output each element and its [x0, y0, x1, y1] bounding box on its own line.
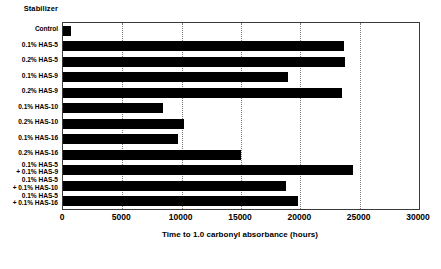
x-axis-tick-label: 25000 — [347, 212, 371, 222]
x-axis-tick-label: 10000 — [169, 212, 193, 222]
bar — [63, 103, 163, 113]
bar-chart: Stabilizer Control0.1% HAS-50.2% HAS-50.… — [0, 0, 441, 269]
bar — [63, 57, 345, 67]
category-label: 0.1% HAS-5 + 0.1% HAS-9 — [0, 161, 58, 176]
bar — [63, 119, 184, 129]
category-label: 0.2% HAS-5 — [0, 56, 58, 63]
gridline — [360, 23, 361, 209]
category-label: 0.1% HAS-5 — [0, 41, 58, 48]
category-label: 0.1% HAS-9 — [0, 72, 58, 79]
x-axis-tick-label: 15000 — [228, 212, 252, 222]
bar — [63, 41, 344, 51]
y-axis-title: Stabilizer — [0, 4, 58, 13]
category-label: 0.2% HAS-10 — [0, 118, 58, 125]
bar — [63, 150, 241, 160]
bar — [63, 181, 286, 191]
category-label: 0.2% HAS-9 — [0, 87, 58, 94]
bar — [63, 165, 353, 175]
x-axis-tick-label: 30000 — [406, 212, 430, 222]
plot-area — [62, 22, 420, 210]
x-axis-title: Time to 1.0 carbonyl absorbance (hours) — [62, 230, 418, 239]
category-label: 0.2% HAS-16 — [0, 149, 58, 156]
bar — [63, 134, 178, 144]
x-axis-tick-list: 050001000015000200002500030000 — [0, 212, 441, 226]
category-label-list: Control0.1% HAS-50.2% HAS-50.1% HAS-90.2… — [0, 22, 58, 208]
category-label: 0.1% HAS-5 + 0.1% HAS-16 — [0, 192, 58, 207]
x-axis-tick-label: 20000 — [288, 212, 312, 222]
bar — [63, 26, 71, 36]
x-axis-tick-label: 0 — [60, 212, 65, 222]
category-label: Control — [0, 25, 58, 32]
category-label: 0.1% HAS-10 — [0, 103, 58, 110]
bar — [63, 196, 298, 206]
category-label: 0.1% HAS-16 — [0, 134, 58, 141]
category-label: 0.1% HAS-5 + 0.1% HAS-10 — [0, 176, 58, 191]
x-axis-tick-label: 5000 — [112, 212, 131, 222]
bar — [63, 88, 342, 98]
bar — [63, 72, 288, 82]
